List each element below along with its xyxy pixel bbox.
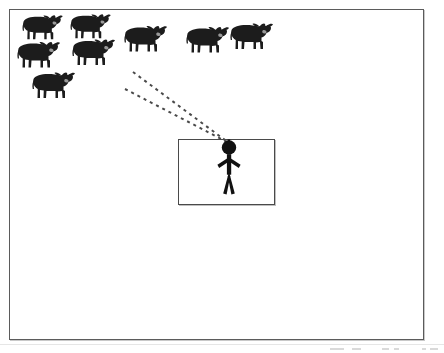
handler-stick-figure [214, 139, 244, 195]
cow-icon [121, 22, 167, 58]
scan-mark-6 [430, 348, 438, 350]
scan-baseline [0, 344, 444, 345]
cow-4 [69, 35, 115, 72]
scan-mark-5 [422, 348, 426, 350]
scanner-edge-marks [330, 346, 440, 352]
cow-7 [183, 23, 229, 59]
cow-6 [121, 22, 167, 58]
cow-8 [227, 19, 273, 56]
cow-icon [69, 35, 115, 72]
handler-figure-icon [214, 139, 244, 195]
scan-mark-3 [382, 348, 389, 350]
cow-5 [29, 68, 75, 105]
scan-mark-1 [330, 348, 344, 350]
scan-mark-4 [394, 348, 399, 350]
cow-icon [29, 68, 75, 105]
cow-icon [183, 23, 229, 59]
scan-mark-2 [352, 348, 361, 350]
cow-icon [227, 19, 273, 56]
diagram-canvas [0, 0, 444, 353]
